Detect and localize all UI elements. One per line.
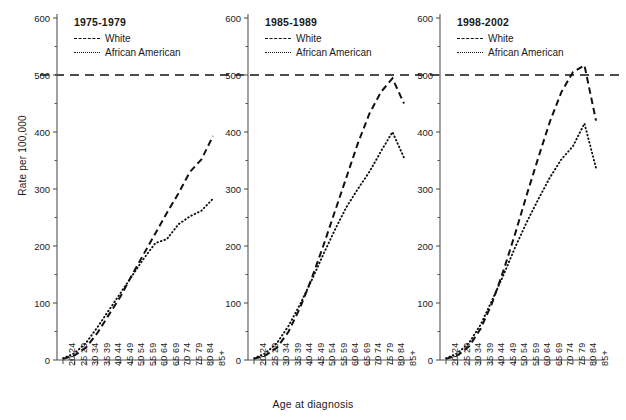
legend: WhiteAfrican American xyxy=(457,31,564,59)
legend: WhiteAfrican American xyxy=(74,31,181,59)
y-tick-label: 200 xyxy=(24,241,50,252)
y-tick-label: 0 xyxy=(407,355,433,366)
y-tick-label: 500 xyxy=(24,70,50,81)
y-tick-label: 200 xyxy=(407,241,433,252)
x-tick-label: 35 39 xyxy=(102,342,112,366)
panel-title: 1985-1989 xyxy=(265,16,317,28)
x-tick-label: 60 64 xyxy=(159,342,169,366)
legend-label: White xyxy=(488,33,514,44)
x-tick-label: 20 24 xyxy=(258,342,268,366)
x-tick-label: 65 69 xyxy=(362,342,372,366)
y-tick-label: 400 xyxy=(24,127,50,138)
legend-dashed-line-icon xyxy=(265,38,291,39)
x-tick-label: 25 29 xyxy=(79,342,89,366)
x-tick-label: 20 24 xyxy=(450,342,460,366)
legend-label: White xyxy=(296,33,322,44)
x-tick-label: 80 84 xyxy=(205,342,215,366)
legend-item: White xyxy=(457,31,564,45)
x-tick-label: 40 44 xyxy=(496,342,506,366)
x-tick-label: 75 79 xyxy=(385,342,395,366)
x-tick-label: 70 74 xyxy=(373,342,383,366)
legend-item: White xyxy=(74,31,181,45)
legend-dashed-line-icon xyxy=(457,38,483,39)
x-tick-label: 45 49 xyxy=(316,342,326,366)
x-tick-label: 65 69 xyxy=(171,342,181,366)
y-tick-label: 0 xyxy=(215,355,241,366)
panel-title: 1998-2002 xyxy=(457,16,509,28)
legend: WhiteAfrican American xyxy=(265,31,372,59)
x-tick-label: 65 69 xyxy=(554,342,564,366)
legend-dotted-line-icon xyxy=(265,52,291,53)
series-line-white xyxy=(446,65,596,359)
legend-label: African American xyxy=(296,47,372,58)
x-tick-label: 25 29 xyxy=(462,342,472,366)
y-tick-label: 100 xyxy=(215,298,241,309)
x-tick-label: 80 84 xyxy=(588,342,598,366)
chart-figure: Rate per 100,000 Age at diagnosis 010020… xyxy=(0,0,626,420)
series-line-african-american xyxy=(446,123,596,358)
legend-item: African American xyxy=(457,45,564,59)
series-line-white xyxy=(63,136,213,359)
y-tick-label: 500 xyxy=(407,70,433,81)
legend-dashed-line-icon xyxy=(74,38,100,39)
x-tick-label: 80 84 xyxy=(396,342,406,366)
y-tick-label: 300 xyxy=(215,184,241,195)
x-tick-label: 75 79 xyxy=(577,342,587,366)
series-line-african-american xyxy=(254,132,404,358)
x-tick-label: 30 34 xyxy=(473,342,483,366)
legend-label: African American xyxy=(105,47,181,58)
y-tick-label: 600 xyxy=(407,13,433,24)
y-tick-label: 400 xyxy=(215,127,241,138)
x-tick-label: 25 29 xyxy=(270,342,280,366)
x-tick-label: 30 34 xyxy=(281,342,291,366)
y-tick-label: 500 xyxy=(215,70,241,81)
x-tick-label: 70 74 xyxy=(182,342,192,366)
x-tick-label: 55 59 xyxy=(531,342,541,366)
x-tick-label: 50 54 xyxy=(136,342,146,366)
x-tick-label: 60 64 xyxy=(542,342,552,366)
legend-label: White xyxy=(105,33,131,44)
y-tick-label: 300 xyxy=(407,184,433,195)
x-tick-label: 30 34 xyxy=(90,342,100,366)
y-tick-label: 300 xyxy=(24,184,50,195)
y-tick-label: 200 xyxy=(215,241,241,252)
legend-dotted-line-icon xyxy=(457,52,483,53)
x-tick-label: 75 79 xyxy=(194,342,204,366)
x-tick-label: 50 54 xyxy=(327,342,337,366)
y-tick-label: 0 xyxy=(24,355,50,366)
y-tick-label: 400 xyxy=(407,127,433,138)
series-line-african-american xyxy=(63,199,213,359)
x-tick-label: 35 39 xyxy=(293,342,303,366)
x-tick-label: 40 44 xyxy=(113,342,123,366)
x-tick-label: 40 44 xyxy=(304,342,314,366)
legend-item: African American xyxy=(265,45,372,59)
legend-item: White xyxy=(265,31,372,45)
x-tick-label: 20 24 xyxy=(67,342,77,366)
x-tick-label: 45 49 xyxy=(508,342,518,366)
y-tick-label: 600 xyxy=(215,13,241,24)
y-tick-label: 600 xyxy=(24,13,50,24)
x-tick-label: 45 49 xyxy=(125,342,135,366)
x-tick-label: 55 59 xyxy=(339,342,349,366)
x-tick-label: 70 74 xyxy=(565,342,575,366)
x-tick-label: 60 64 xyxy=(350,342,360,366)
x-tick-label: 50 54 xyxy=(519,342,529,366)
series-line-white xyxy=(254,78,404,358)
legend-label: African American xyxy=(488,47,564,58)
x-tick-label: 35 39 xyxy=(485,342,495,366)
y-tick-label: 100 xyxy=(24,298,50,309)
y-tick-label: 100 xyxy=(407,298,433,309)
panel-title: 1975-1979 xyxy=(74,16,126,28)
x-tick-label: 55 59 xyxy=(148,342,158,366)
legend-dotted-line-icon xyxy=(74,52,100,53)
x-tick-label: 85+ xyxy=(600,350,610,366)
legend-item: African American xyxy=(74,45,181,59)
